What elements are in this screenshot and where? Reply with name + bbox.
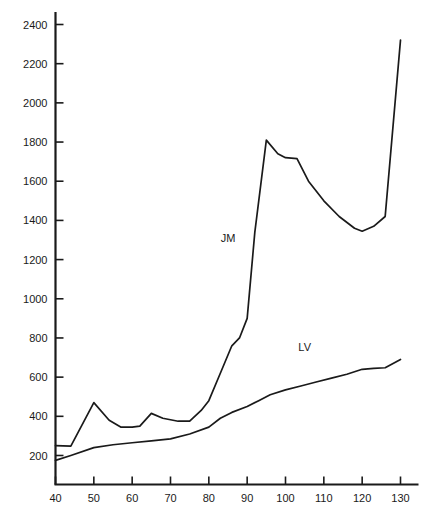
series-label-jm: JM [221,232,236,244]
y-tick-label: 1400 [23,214,47,226]
y-tick-label: 2400 [23,19,47,31]
y-tick-label: 1800 [23,136,47,148]
y-tick-label: 400 [29,410,47,422]
x-tick-label: 100 [276,492,294,504]
x-tick-label: 50 [88,492,100,504]
series-lines [56,40,401,460]
x-tick-label: 40 [49,492,61,504]
x-tick-label: 70 [164,492,176,504]
x-tick-label: 80 [203,492,215,504]
chart-plot-area: 2004006008001000120014001600180020002200… [0,0,430,523]
x-tick-label: 60 [126,492,138,504]
y-tick-label: 2200 [23,58,47,70]
x-tick-label: 130 [391,492,409,504]
y-tick-label: 2000 [23,97,47,109]
y-tick-label: 800 [29,332,47,344]
y-tick-label: 1000 [23,293,47,305]
y-tick-label: 1600 [23,175,47,187]
x-axis-ticks: 405060708090100110120130 [49,477,409,504]
series-line-lv [56,360,401,461]
y-tick-label: 1200 [23,254,47,266]
line-chart: 2004006008001000120014001600180020002200… [0,0,430,523]
x-tick-label: 90 [241,492,253,504]
x-tick-label: 110 [315,492,333,504]
y-tick-label: 600 [29,371,47,383]
y-axis-ticks: 2004006008001000120014001600180020002200… [23,19,63,462]
y-tick-label: 200 [29,450,47,462]
series-inline-labels: JMLV [221,232,312,353]
series-label-lv: LV [298,341,311,353]
x-tick-label: 120 [353,492,371,504]
